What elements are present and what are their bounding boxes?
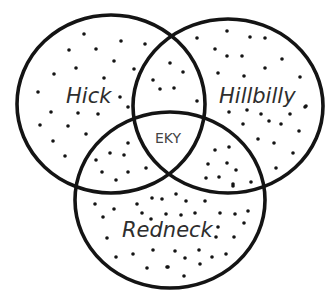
label-redneck: Redneck [122,218,214,242]
dot [227,145,231,149]
dot [195,36,199,40]
dot [280,57,284,61]
dot [132,67,136,71]
dot [96,112,100,116]
dot [241,122,245,126]
dot [246,209,250,213]
dot [118,95,122,99]
dot [248,35,252,39]
dot [105,236,109,240]
dot [233,212,237,216]
dot [173,249,177,253]
dot [51,139,55,143]
dot [242,221,246,225]
dot [304,104,308,108]
dot [140,211,144,215]
dot [198,262,202,266]
dot [112,207,116,211]
dot [135,202,139,206]
dot [114,255,118,259]
dot [195,99,199,103]
dot [131,252,135,256]
dot [126,141,130,145]
dot [279,122,283,126]
dot [231,184,235,188]
dot [66,124,70,128]
dot [181,70,185,74]
dot [297,129,301,133]
dot [249,180,253,184]
dot [298,75,302,79]
dot [160,197,164,201]
dot [143,42,147,46]
dot [224,252,228,256]
dot [112,59,116,63]
dot [216,71,220,75]
dot [214,235,218,239]
dot [164,212,168,216]
dot [274,166,278,170]
label-hillbilly: Hillbilly [219,84,296,108]
dot [256,137,260,141]
dot [119,39,123,43]
dot [174,192,178,196]
dot [267,119,271,123]
label-hick: Hick [66,84,112,108]
dot [184,199,188,203]
dot [288,112,292,116]
dot [52,72,56,76]
dot [151,248,155,252]
dot [145,266,149,270]
dot [197,248,201,252]
venn-diagram: Hick Hillbilly Redneck EKY [0,0,336,304]
dot [225,161,229,165]
dot [216,225,220,229]
dot [36,90,40,94]
dot [126,105,130,109]
dot [102,76,106,80]
dot [210,255,214,259]
dot [291,151,295,155]
dot [38,123,42,127]
dot [63,154,67,158]
dot [240,54,244,58]
dot [182,274,186,278]
dot [203,199,207,203]
dot [263,66,267,70]
dot [74,66,78,70]
dot [150,196,154,200]
dot [225,54,229,58]
dot [217,175,221,179]
dot [213,148,217,152]
dot [101,215,105,219]
dot [172,86,176,90]
dot [245,108,249,112]
dot [242,74,246,78]
dot [234,168,238,172]
dot [122,153,126,157]
dot [67,48,71,52]
dot [151,78,155,82]
dot [263,36,267,40]
dot [94,47,98,51]
dot [108,151,112,155]
dot [227,110,231,114]
dot [100,170,104,174]
dot [218,211,222,215]
dot [144,166,148,170]
dot [179,213,183,217]
dot [193,211,197,215]
label-intersection-eky: EKY [155,130,182,146]
dot [232,235,236,239]
dot [183,256,187,260]
dot [94,158,98,162]
dot [272,141,276,145]
dot [158,87,162,91]
dot [49,110,53,114]
dot [259,112,263,116]
dot [76,111,80,115]
dot [225,29,229,33]
dot [168,61,172,65]
dot [213,47,217,51]
dot [93,202,97,206]
